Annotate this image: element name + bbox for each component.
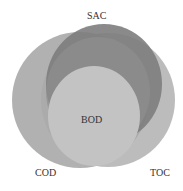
bod-label: BOD — [81, 114, 102, 125]
venn-diagram — [0, 0, 183, 191]
toc-label: TOC — [150, 167, 170, 178]
sac-label: SAC — [87, 10, 106, 21]
cod-label: COD — [35, 167, 56, 178]
